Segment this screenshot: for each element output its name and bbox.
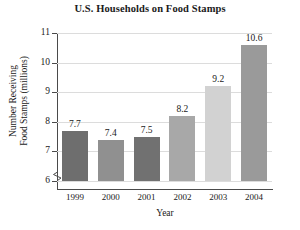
plot-area: 7.77.47.58.29.210.6 <box>57 33 272 181</box>
x-axis-title: Year <box>57 208 273 218</box>
y-axis-title-line-2: Food Stamps (millions) <box>19 56 30 146</box>
gridline <box>57 151 272 152</box>
x-tick-label: 2003 <box>198 193 238 202</box>
chart-title: U.S. Households on Food Stamps <box>0 3 300 14</box>
y-axis-title-line-1: Number Receiving <box>8 56 19 146</box>
x-tick-label: 2004 <box>234 193 274 202</box>
gridline <box>57 92 272 93</box>
gridline <box>57 63 272 64</box>
bar[interactable] <box>134 137 160 181</box>
x-tick-label: 2000 <box>91 193 131 202</box>
y-tick-label: 6 <box>34 176 50 186</box>
x-tick-label: 2001 <box>127 193 167 202</box>
x-tick-label: 2002 <box>162 193 202 202</box>
bar-value-label: 8.2 <box>162 105 202 115</box>
y-tick-label: 8 <box>34 117 50 127</box>
bar-value-label: 7.7 <box>55 120 95 130</box>
y-axis-title: Number Receiving Food Stamps (millions) <box>6 28 32 173</box>
gridline <box>57 181 272 182</box>
bar[interactable] <box>62 131 88 181</box>
y-tick-label: 9 <box>34 87 50 97</box>
y-tick-label: 10 <box>34 58 50 68</box>
bar[interactable] <box>205 86 231 181</box>
x-tick-label: 1999 <box>55 193 95 202</box>
y-tick-label: 7 <box>34 146 50 156</box>
bar[interactable] <box>98 140 124 181</box>
y-tick-label: 11 <box>34 28 50 38</box>
bar-value-label: 7.5 <box>127 126 167 136</box>
bar-value-label: 9.2 <box>198 75 238 85</box>
bar-value-label: 7.4 <box>91 129 131 139</box>
bar[interactable] <box>241 45 267 181</box>
chart-figure: U.S. Households on Food Stamps Number Re… <box>0 0 300 230</box>
bar[interactable] <box>169 116 195 181</box>
x-axis-spine <box>57 189 273 190</box>
bar-value-label: 10.6 <box>234 34 274 44</box>
